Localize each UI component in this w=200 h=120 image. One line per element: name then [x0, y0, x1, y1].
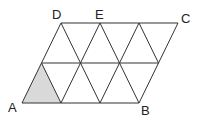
label-C: C — [181, 11, 190, 26]
label-E: E — [95, 7, 104, 22]
diag-back-4 — [139, 23, 159, 63]
geometry-diagram: A B C D E — [0, 0, 200, 120]
label-A: A — [8, 100, 17, 115]
label-D: D — [52, 7, 61, 22]
shaded-triangle — [22, 63, 61, 103]
label-B: B — [141, 103, 150, 118]
